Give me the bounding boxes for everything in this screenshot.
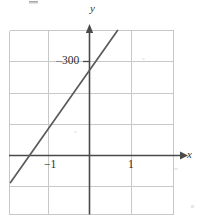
scan-artifact-top	[29, 1, 38, 4]
grid-lines	[10, 31, 174, 215]
x-axis-label: x	[187, 149, 192, 160]
x-tick-label-positive-one: 1	[128, 159, 134, 171]
scan-speck	[142, 58, 145, 60]
graph-figure: y x 300 −1 1	[0, 0, 198, 224]
scan-speck	[191, 205, 194, 208]
y-intercept-label: 300	[62, 55, 79, 67]
scan-speck	[74, 131, 77, 133]
scan-speck	[174, 168, 178, 170]
coordinate-plane	[0, 0, 198, 224]
x-tick-label-negative-one: −1	[44, 159, 56, 171]
axes	[9, 33, 180, 215]
y-axis-arrowhead	[86, 24, 93, 33]
y-axis-label: y	[90, 3, 95, 14]
